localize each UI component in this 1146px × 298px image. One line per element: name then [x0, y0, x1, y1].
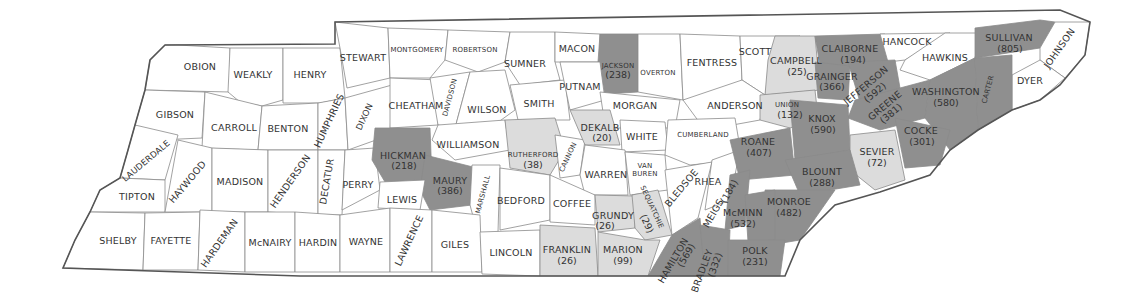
- value-dekalb: (20): [592, 132, 612, 143]
- value-monroe: (482): [776, 207, 802, 218]
- value-claiborne: (194): [840, 54, 866, 65]
- value-roane: (407): [746, 147, 772, 158]
- label-sevier: SEVIER: [859, 146, 894, 157]
- label-knox: KNOX: [808, 113, 836, 124]
- label-monroe: MONROE: [767, 196, 811, 207]
- label-tipton: TIPTON: [118, 191, 155, 202]
- label-claiborne: CLAIBORNE: [822, 43, 879, 54]
- value-sevier: (72): [867, 157, 887, 168]
- label-franklin: FRANKLIN: [543, 244, 591, 255]
- label-dixon: CHEATHAM: [389, 100, 444, 111]
- label-lincoln: LINCOLN: [489, 247, 532, 258]
- label-obion: OBION: [184, 61, 216, 72]
- value-union: (366): [819, 81, 845, 92]
- value-blount: (288): [809, 177, 835, 188]
- label-hardin: HARDIN: [299, 237, 338, 248]
- label-fayette: FAYETTE: [150, 235, 191, 246]
- county-washington[interactable]: [975, 55, 1012, 130]
- label-coffee: COFFEE: [553, 198, 591, 209]
- label-carter: DYER: [1017, 75, 1043, 86]
- label-marion: MARION: [603, 244, 643, 255]
- label-polk: POLK: [742, 245, 768, 256]
- label-fentress: FENTRESS: [687, 57, 738, 68]
- tennessee-county-map: OBION WEAKLY HENRY STEWART MONTGOMERY RO…: [0, 0, 1146, 298]
- label-roane: ROANE: [741, 136, 776, 147]
- label-scott: SCOTT: [739, 46, 772, 57]
- label-davidson: WILSON: [467, 104, 506, 115]
- label-blount: BLOUNT: [802, 166, 842, 177]
- value-knox: (590): [810, 124, 836, 135]
- label-macon: MACON: [559, 43, 596, 54]
- label-van-buren-1: VAN: [638, 162, 653, 170]
- label-rhea: RHEA: [694, 176, 721, 187]
- label-dyer: GIBSON: [156, 109, 194, 120]
- label-mcminn: McMINN: [723, 207, 763, 218]
- value-grundy: (26): [595, 220, 615, 231]
- label-williamson: WILLIAMSON: [437, 139, 500, 150]
- label-rutherford: RUTHERFORD: [508, 151, 559, 159]
- label-hancock: HANCOCK: [882, 36, 932, 47]
- label-cumberland: CUMBERLAND: [677, 131, 729, 139]
- label-sullivan: SULLIVAN: [985, 32, 1032, 43]
- label-campbell: CAMPBELL: [770, 55, 822, 66]
- label-smith: PUTNAM: [559, 81, 601, 92]
- value-mcminn: (532): [730, 218, 756, 229]
- label-hawkins: HAWKINS: [922, 52, 968, 63]
- label-mcnairy: McNAIRY: [248, 237, 291, 248]
- label-cocke: COCKE: [904, 125, 938, 136]
- value-campbell: (25): [787, 66, 807, 77]
- label-henry: HENRY: [293, 69, 326, 80]
- label-weakly: WEAKLY: [233, 69, 272, 80]
- label-sumner: SUMNER: [504, 58, 546, 69]
- value-marion: (99): [613, 255, 633, 266]
- label-montgomery: MONTGOMERY: [390, 46, 444, 54]
- label-wayne: WAYNE: [349, 236, 384, 247]
- label-shelby: SHELBY: [99, 235, 136, 246]
- value-hickman: (218): [391, 160, 417, 171]
- label-robertson: ROBERTSON: [452, 46, 497, 54]
- label-stewart: STEWART: [340, 52, 386, 63]
- label-overton: OVERTON: [640, 69, 675, 77]
- value-greene: (580): [933, 97, 959, 108]
- label-anderson: UNION: [775, 101, 799, 109]
- label-putnam: MORGAN: [613, 100, 657, 111]
- value-rutherford: (38): [523, 159, 543, 170]
- label-carroll: BENTON: [267, 123, 308, 134]
- value-cocke: (301): [909, 136, 935, 147]
- label-lewis: LEWIS: [387, 194, 418, 205]
- label-giles: GILES: [441, 239, 470, 250]
- label-gibson: CARROLL: [211, 122, 257, 133]
- label-warren: WARREN: [585, 169, 628, 180]
- label-madison: MADISON: [217, 176, 264, 187]
- value-franklin: (26): [557, 255, 577, 266]
- value-sullivan: (805): [997, 43, 1023, 54]
- label-perry: PERRY: [342, 179, 373, 190]
- label-morgan: ANDERSON: [707, 100, 763, 111]
- label-bedford: BEDFORD: [497, 195, 545, 206]
- value-maury: (386): [437, 185, 463, 196]
- label-white: WHITE: [626, 131, 658, 142]
- value-polk: (231): [742, 256, 768, 267]
- label-greene: WASHINGTON: [912, 86, 980, 97]
- value-jackson: (238): [605, 69, 631, 80]
- county-overton[interactable]: [638, 34, 683, 100]
- label-wilson: SMITH: [524, 98, 555, 109]
- label-van-buren-2: BUREN: [632, 170, 657, 178]
- value-anderson: (132): [777, 109, 803, 120]
